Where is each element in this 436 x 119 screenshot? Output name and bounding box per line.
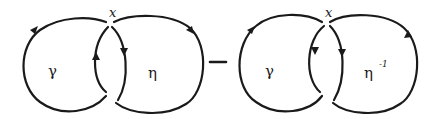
arrowheads	[30, 26, 412, 60]
left-gamma-outer-arc	[24, 18, 107, 111]
right-eta-label: η	[364, 66, 373, 81]
right-base-point-label: x	[325, 6, 332, 19]
left-eta-inner-arc	[112, 27, 126, 100]
left-base-point-label: x	[109, 6, 116, 19]
right-gamma-label: γ	[265, 64, 274, 79]
right-eta-inner-arrow-icon	[338, 49, 346, 57]
right-gamma-inner-arrow-icon	[311, 47, 319, 55]
right-eta-inverse-superscript: -1	[379, 60, 388, 69]
left-gamma-label: γ	[48, 64, 57, 79]
right-eta-inverse-arrow-icon	[404, 30, 412, 38]
left-gamma-inner-arrow-icon	[92, 52, 100, 60]
left-eta-inner-arrow-icon	[120, 48, 128, 56]
right-gamma-inner-arc	[309, 26, 324, 92]
diagram-canvas	[0, 0, 436, 119]
left-eta-label: η	[148, 66, 157, 81]
right-eta-inner-arc	[330, 26, 343, 100]
loop-relation-diagram: x γ η x γ η -1	[0, 0, 436, 119]
